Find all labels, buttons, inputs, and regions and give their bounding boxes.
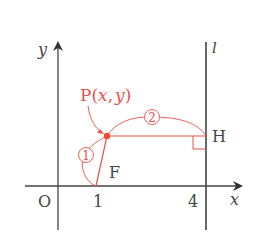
mark-2-label: 2 <box>148 111 156 125</box>
tick-1-label: 1 <box>93 192 103 211</box>
point-h-label: H <box>212 127 226 146</box>
p-label-prefix: P( <box>80 85 98 105</box>
segment-pf <box>96 136 107 186</box>
coordinate-diagram: 1 2 P(x,y) F H y x l O 1 4 <box>0 0 261 244</box>
line-l-label: l <box>212 39 217 57</box>
tick-4-label: 4 <box>188 192 198 211</box>
p-label-comma: , <box>108 85 113 105</box>
mark-1-circle: 1 <box>79 148 94 164</box>
point-p-label: P(x,y) <box>80 85 131 105</box>
right-angle-mark <box>193 136 206 149</box>
point-f-label: F <box>109 163 120 182</box>
x-axis-label: x <box>230 190 239 209</box>
origin-label: O <box>38 192 51 211</box>
mark-1-label: 1 <box>82 149 90 163</box>
point-p <box>104 133 110 139</box>
p-label-suffix: ) <box>125 85 132 105</box>
p-label-y: y <box>114 85 125 105</box>
pointer-arrow <box>88 106 104 134</box>
y-axis-label: y <box>37 40 48 59</box>
p-label-x: x <box>98 85 108 105</box>
mark-2-circle: 2 <box>145 110 160 126</box>
